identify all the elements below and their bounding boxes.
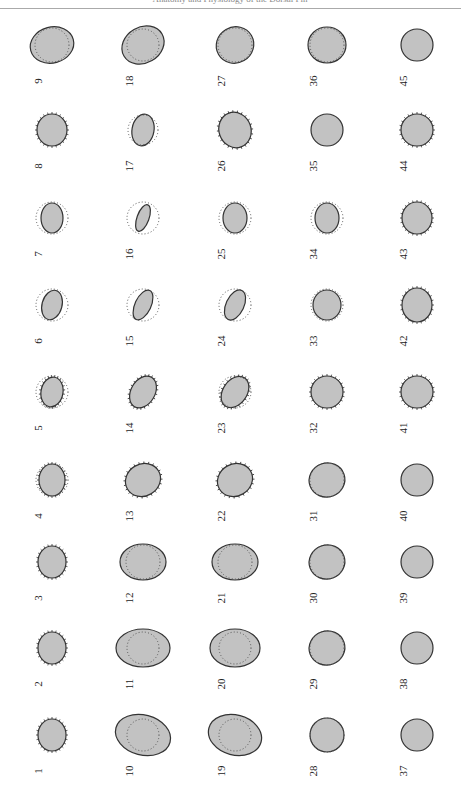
shape-number-label: 19: [215, 761, 227, 781]
running-header: Anatomy and Physiology of the Dorsal Fin: [130, 0, 330, 4]
ellipse-shape-icon: [195, 13, 275, 77]
shape-cell: 43: [377, 186, 457, 272]
shape-number-label: 16: [123, 244, 135, 264]
ellipse-shape-icon: [12, 13, 92, 77]
ellipse-shape-icon: [12, 616, 92, 680]
shape-number-label: 24: [215, 331, 227, 351]
ellipse-shape-icon: [12, 448, 92, 512]
shape-cell: 28: [287, 703, 367, 789]
ellipse-shape-icon: [195, 616, 275, 680]
shape-number-label: 7: [32, 244, 44, 264]
ellipse-shape-icon: [195, 273, 275, 337]
ellipse-shape-icon: [103, 616, 183, 680]
shape-number-label: 15: [123, 331, 135, 351]
ellipse-shape-icon: [287, 616, 367, 680]
ellipse-shape-icon: [287, 360, 367, 424]
ellipse-shape-icon: [12, 703, 92, 767]
shape-number-label: 8: [32, 156, 44, 176]
ellipse-shape-icon: [195, 360, 275, 424]
shape-cell: 13: [103, 448, 183, 534]
ellipse-shape-icon: [195, 703, 275, 767]
shape-number-label: 9: [32, 71, 44, 91]
shape-number-label: 6: [32, 331, 44, 351]
shape-cell: 42: [377, 273, 457, 359]
ellipse-shape-icon: [287, 273, 367, 337]
ellipse-shape-icon: [103, 186, 183, 250]
shape-number-label: 36: [307, 71, 319, 91]
ellipse-shape-icon: [287, 186, 367, 250]
shape-cell: 33: [287, 273, 367, 359]
shape-cell: 21: [195, 530, 275, 616]
shape-cell: 30: [287, 530, 367, 616]
ellipse-shape-icon: [377, 98, 457, 162]
shape-cell: 27: [195, 13, 275, 99]
shape-number-label: 35: [307, 156, 319, 176]
shape-number-label: 22: [215, 506, 227, 526]
ellipse-shape-icon: [103, 448, 183, 512]
shape-cell: 35: [287, 98, 367, 184]
shape-cell: 29: [287, 616, 367, 702]
ellipse-shape-icon: [195, 186, 275, 250]
shape-number-label: 13: [123, 506, 135, 526]
shape-cell: 15: [103, 273, 183, 359]
shape-cell: 24: [195, 273, 275, 359]
shape-cell: 36: [287, 13, 367, 99]
ellipse-shape-icon: [12, 273, 92, 337]
shape-number-label: 32: [307, 418, 319, 438]
ellipse-shape-icon: [12, 186, 92, 250]
shape-cell: 44: [377, 98, 457, 184]
shape-cell: 4: [12, 448, 92, 534]
shape-cell: 22: [195, 448, 275, 534]
ellipse-shape-icon: [195, 98, 275, 162]
shape-cell: 18: [103, 13, 183, 99]
ellipse-shape-icon: [195, 448, 275, 512]
shape-number-label: 23: [215, 418, 227, 438]
ellipse-shape-icon: [287, 448, 367, 512]
shape-number-label: 14: [123, 418, 135, 438]
shape-cell: 11: [103, 616, 183, 702]
shape-cell: 9: [12, 13, 92, 99]
shape-cell: 25: [195, 186, 275, 272]
ellipse-shape-icon: [287, 98, 367, 162]
shape-number-label: 5: [32, 418, 44, 438]
header-rule: [0, 8, 461, 9]
shape-number-label: 12: [123, 588, 135, 608]
shape-cell: 37: [377, 703, 457, 789]
shape-cell: 14: [103, 360, 183, 446]
ellipse-shape-icon: [377, 13, 457, 77]
ellipse-shape-icon: [12, 530, 92, 594]
shape-number-label: 42: [397, 331, 409, 351]
shape-number-label: 26: [215, 156, 227, 176]
shape-number-label: 20: [215, 674, 227, 694]
shape-number-label: 29: [307, 674, 319, 694]
shape-cell: 1: [12, 703, 92, 789]
shape-number-label: 25: [215, 244, 227, 264]
shape-cell: 17: [103, 98, 183, 184]
ellipse-shape-icon: [287, 530, 367, 594]
shape-number-label: 33: [307, 331, 319, 351]
ellipse-shape-icon: [377, 448, 457, 512]
shape-cell: 38: [377, 616, 457, 702]
shape-number-label: 4: [32, 506, 44, 526]
shape-cell: 39: [377, 530, 457, 616]
shape-number-label: 11: [123, 674, 135, 694]
shape-number-label: 41: [397, 418, 409, 438]
shape-number-label: 30: [307, 588, 319, 608]
shape-number-label: 43: [397, 244, 409, 264]
ellipse-shape-icon: [377, 273, 457, 337]
shape-number-label: 3: [32, 588, 44, 608]
ellipse-shape-icon: [377, 530, 457, 594]
shape-number-label: 38: [397, 674, 409, 694]
shape-number-label: 44: [397, 156, 409, 176]
ellipse-shape-icon: [103, 360, 183, 424]
ellipse-shape-icon: [12, 360, 92, 424]
shape-cell: 23: [195, 360, 275, 446]
ellipse-shape-icon: [377, 703, 457, 767]
ellipse-shape-icon: [103, 530, 183, 594]
shape-cell: 40: [377, 448, 457, 534]
shape-number-label: 28: [307, 761, 319, 781]
shape-number-label: 34: [307, 244, 319, 264]
shape-cell: 5: [12, 360, 92, 446]
shape-number-label: 18: [123, 71, 135, 91]
shape-number-label: 27: [215, 71, 227, 91]
